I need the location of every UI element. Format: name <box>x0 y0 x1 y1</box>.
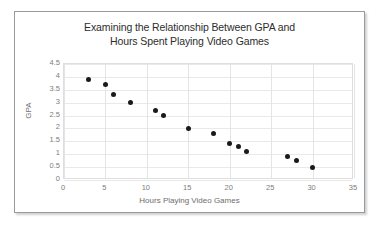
x-tick-label: 30 <box>292 183 332 192</box>
y-tick-label: 0.5 <box>30 162 60 170</box>
data-point <box>86 77 91 82</box>
data-point <box>161 113 166 118</box>
x-tick-label: 15 <box>167 183 207 192</box>
data-point <box>244 149 249 154</box>
gridline-horizontal <box>64 180 352 181</box>
data-point <box>227 141 232 146</box>
y-tick-label: 2 <box>30 123 60 131</box>
data-point <box>128 100 133 105</box>
x-axis-title: Hours Playing Video Games <box>15 196 364 205</box>
chart-card: Examining the Relationship Between GPA a… <box>14 11 365 213</box>
x-axis-tick-labels: 05101520253035 <box>63 183 353 194</box>
chart-title-line-1: Examining the Relationship Between GPA a… <box>15 21 364 35</box>
x-tick-label: 25 <box>250 183 290 192</box>
y-tick-label: 1.5 <box>30 136 60 144</box>
data-point <box>285 154 290 159</box>
plot-area <box>63 63 353 179</box>
x-tick-label: 5 <box>84 183 124 192</box>
data-point <box>211 131 216 136</box>
x-tick-label: 20 <box>209 183 249 192</box>
scatter-points-layer <box>64 64 352 178</box>
y-tick-label: 0 <box>30 175 60 183</box>
y-tick-label: 3.5 <box>30 85 60 93</box>
y-tick-label: 4 <box>30 72 60 80</box>
y-axis-tick-labels: 00.511.522.533.544.5 <box>29 63 60 179</box>
y-tick-label: 2.5 <box>30 111 60 119</box>
data-point <box>103 82 108 87</box>
x-tick-label: 0 <box>43 183 83 192</box>
y-tick-label: 1 <box>30 149 60 157</box>
x-tick-label: 10 <box>126 183 166 192</box>
chart-title: Examining the Relationship Between GPA a… <box>15 21 364 48</box>
data-point <box>236 144 241 149</box>
data-point <box>153 108 158 113</box>
gridline-vertical <box>354 64 355 178</box>
y-axis-title: GPA <box>24 96 33 126</box>
data-point <box>310 165 315 170</box>
x-tick-label: 35 <box>333 183 373 192</box>
data-point <box>294 158 299 163</box>
y-tick-label: 4.5 <box>30 59 60 67</box>
y-tick-label: 3 <box>30 98 60 106</box>
data-point <box>111 92 116 97</box>
chart-title-line-2: Hours Spent Playing Video Games <box>15 35 364 49</box>
data-point <box>186 126 191 131</box>
